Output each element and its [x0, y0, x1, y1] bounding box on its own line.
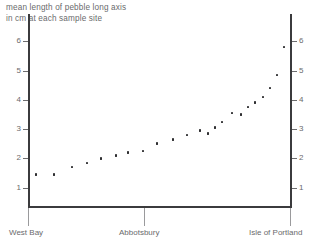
y-axis-right-tick: [292, 188, 297, 189]
scatter-point: [172, 138, 175, 141]
scatter-point: [127, 151, 130, 154]
scatter-point: [254, 101, 257, 104]
y-axis-right-tick-label: 2: [299, 154, 308, 162]
y-axis-right-tick: [292, 71, 297, 72]
y-axis-right-tick: [292, 158, 297, 159]
y-axis-left-tick-label: 5: [12, 67, 21, 75]
scatter-point: [247, 106, 250, 109]
y-axis-right-tick-label: 1: [299, 184, 308, 192]
x-axis-site-tick: [290, 208, 291, 226]
y-axis-left-tick: [23, 71, 28, 72]
scatter-point: [221, 121, 224, 124]
y-axis-right: [290, 14, 292, 208]
scatter-point: [35, 173, 38, 176]
y-axis-left-tick: [23, 129, 28, 130]
x-axis: [28, 206, 292, 208]
scatter-point: [71, 166, 74, 169]
scatter-point: [100, 157, 103, 160]
scatter-point: [186, 134, 189, 137]
x-axis-site-tick: [144, 208, 145, 226]
scatter-point: [214, 126, 217, 129]
scatter-point: [262, 96, 265, 99]
x-axis-site-label: Isle of Portland: [249, 228, 302, 237]
y-axis-left-tick: [23, 41, 28, 42]
y-axis-right-tick: [292, 129, 297, 130]
y-axis-right-tick-label: 4: [299, 96, 308, 104]
x-axis-site-tick: [28, 208, 29, 226]
scatter-point: [86, 162, 89, 165]
y-axis-left-tick-label: 6: [12, 37, 21, 45]
chart-title-line-1: mean length of pebble long axis: [6, 2, 126, 13]
y-axis-left-tick-label: 2: [12, 154, 21, 162]
scatter-point: [283, 46, 286, 49]
chart-title-line-2: in cm at each sample site: [6, 13, 126, 24]
y-axis-left-tick-label: 4: [12, 96, 21, 104]
y-axis-right-tick: [292, 41, 297, 42]
scatter-point: [231, 112, 234, 115]
scatter-point: [115, 154, 118, 157]
scatter-point: [207, 132, 210, 135]
chart-title: mean length of pebble long axis in cm at…: [6, 2, 126, 24]
scatter-point: [276, 74, 279, 77]
y-axis-right-tick: [292, 100, 297, 101]
y-axis-left-tick: [23, 100, 28, 101]
scatter-plot-area: [0, 0, 317, 239]
scatter-point: [53, 173, 56, 176]
y-axis-right-tick-label: 3: [299, 125, 308, 133]
x-axis-site-label: Abbotsbury: [119, 228, 159, 237]
scatter-point: [142, 150, 145, 153]
y-axis-left-tick-label: 1: [12, 184, 21, 192]
scatter-point: [240, 113, 243, 116]
x-axis-site-label: West Bay: [9, 228, 43, 237]
scatter-point: [269, 87, 272, 90]
chart-container: mean length of pebble long axis in cm at…: [0, 0, 317, 239]
y-axis-right-tick-label: 5: [299, 67, 308, 75]
y-axis-right-tick-label: 6: [299, 37, 308, 45]
y-axis-left-tick: [23, 158, 28, 159]
scatter-point: [156, 142, 159, 145]
y-axis-left-tick-label: 3: [12, 125, 21, 133]
y-axis-left: [28, 14, 30, 208]
scatter-point: [199, 129, 202, 132]
y-axis-left-tick: [23, 188, 28, 189]
